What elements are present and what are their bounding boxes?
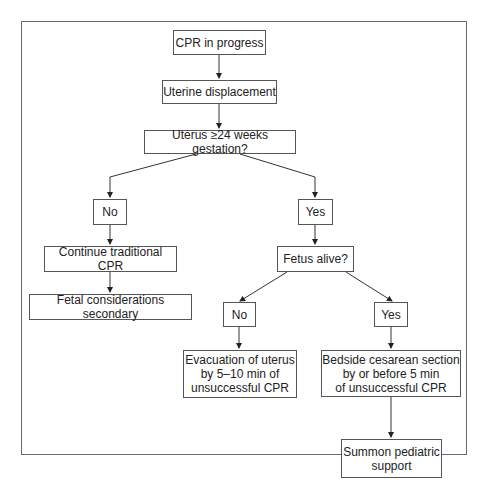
node-no-gestation: No bbox=[93, 199, 127, 225]
node-fetal-secondary: Fetal considerations secondary bbox=[29, 294, 192, 320]
node-label: Yes bbox=[306, 205, 326, 219]
node-summon-pediatric: Summon pediatric support bbox=[341, 439, 442, 478]
node-uterus-24-weeks: Uterus ≥24 weeks gestation? bbox=[144, 130, 296, 154]
node-yes-fetus: Yes bbox=[374, 302, 408, 327]
node-uterine-displacement: Uterine displacement bbox=[162, 80, 277, 104]
node-label: CPR in progress bbox=[175, 36, 263, 50]
node-label-line-2: support bbox=[371, 459, 411, 473]
node-cpr-in-progress: CPR in progress bbox=[173, 30, 266, 55]
node-label: No bbox=[232, 308, 247, 322]
node-label: Uterus ≥24 weeks gestation? bbox=[145, 128, 295, 156]
node-label-line-1: Evacuation of uterus bbox=[185, 353, 294, 367]
node-label-line-3: of unsuccessful CPR bbox=[335, 381, 446, 395]
node-no-fetus: No bbox=[223, 302, 256, 327]
node-fetus-alive: Fetus alive? bbox=[277, 246, 354, 272]
node-label-line-1: Summon pediatric bbox=[343, 445, 440, 459]
node-label: Fetal considerations secondary bbox=[30, 293, 191, 321]
node-label-line-2: by 5–10 min of bbox=[201, 367, 280, 381]
node-cesarean: Bedside cesarean section by or before 5 … bbox=[321, 350, 461, 397]
node-label-line-1: Bedside cesarean section bbox=[322, 353, 459, 367]
node-yes-gestation: Yes bbox=[298, 199, 333, 225]
node-continue-cpr: Continue traditional CPR bbox=[44, 246, 177, 272]
node-label: Uterine displacement bbox=[163, 85, 276, 99]
node-label: Fetus alive? bbox=[283, 252, 348, 266]
node-label-line-2: by or before 5 min bbox=[343, 367, 440, 381]
node-evacuation: Evacuation of uterus by 5–10 min of unsu… bbox=[183, 350, 297, 398]
node-label: No bbox=[102, 205, 117, 219]
node-label: Yes bbox=[381, 308, 401, 322]
node-label-line-3: unsuccessful CPR bbox=[191, 381, 289, 395]
node-label: Continue traditional CPR bbox=[45, 245, 176, 273]
